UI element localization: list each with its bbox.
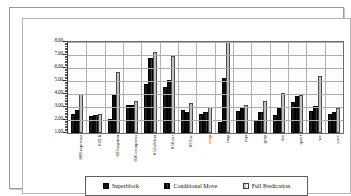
group-separator	[178, 42, 179, 133]
horizontal-gridline	[68, 42, 343, 43]
horizontal-gridline	[68, 107, 343, 108]
legend-item-conditional-move: Conditional Move	[164, 183, 217, 189]
group-separator	[233, 42, 234, 133]
series-2-swatch-icon	[243, 183, 249, 189]
x-axis-labels: 008.espresso022.li023.eqntott026.compres…	[67, 134, 344, 161]
figure-inner-frame: 1.002.003.004.005.006.007.008.00 008.esp…	[22, 18, 351, 194]
group-separator	[215, 42, 216, 133]
group-separator	[288, 42, 289, 133]
chart-legend: Superblock Conditional Move Full Predica…	[85, 176, 308, 196]
series-1-swatch-icon	[164, 183, 170, 189]
y-axis-tick-label: 8.00	[55, 38, 63, 43]
legend-item-superblock: Superblock	[103, 183, 139, 189]
x-axis-tick-label: yacc	[335, 135, 340, 144]
y-axis-tick-label: 7.00	[55, 51, 63, 56]
group-separator	[160, 42, 161, 133]
group-separator	[306, 42, 307, 133]
x-axis-tick-label: 026.compress	[133, 135, 138, 161]
x-axis-tick-label: cccp	[207, 135, 212, 144]
y-axis-tick-label: 3.00	[55, 103, 63, 108]
plot-panel: 1.002.003.004.005.006.007.008.00 008.esp…	[49, 38, 346, 161]
x-axis-tick-label: 072.sc	[188, 135, 193, 147]
bar-2	[134, 101, 138, 133]
figure-container: 1.002.003.004.005.006.007.008.00 008.esp…	[0, 0, 351, 196]
y-axis-tick-label: 4.00	[55, 90, 63, 95]
bar-2	[299, 95, 303, 133]
group-separator	[325, 42, 326, 133]
y-axis-tick-label: 6.00	[55, 64, 63, 69]
plot-area	[67, 41, 344, 134]
figure-outer-frame: 1.002.003.004.005.006.007.008.00 008.esp…	[9, 7, 344, 189]
bar-2	[79, 94, 83, 133]
bar-2	[263, 101, 267, 133]
x-axis-tick-label: cmp	[225, 135, 230, 143]
x-axis-tick-label: qsort	[298, 135, 303, 145]
group-separator	[196, 42, 197, 133]
group-separator	[123, 42, 124, 133]
x-axis-tick-label: eqn	[243, 135, 248, 142]
horizontal-gridline	[68, 94, 343, 95]
x-axis-tick-label: 023.eqntott	[115, 135, 120, 157]
legend-item-full-predication: Full Predication	[243, 183, 291, 189]
x-axis-tick-label: 022.li	[97, 135, 102, 146]
x-axis-tick-label: 052.alvinn	[152, 135, 157, 155]
group-separator	[105, 42, 106, 133]
legend-label-superblock: Superblock	[112, 183, 139, 189]
group-separator	[251, 42, 252, 133]
series-0-swatch-icon	[103, 183, 109, 189]
y-axis: 1.002.003.004.005.006.007.008.00	[49, 38, 67, 134]
x-axis-tick-label: 056.ear	[170, 135, 175, 149]
y-axis-tick-label: 5.00	[55, 77, 63, 82]
bar-2	[318, 76, 322, 133]
legend-label-conditional-move: Conditional Move	[173, 183, 217, 189]
horizontal-gridline	[68, 81, 343, 82]
group-separator	[270, 42, 271, 133]
bar-2	[281, 93, 285, 133]
y-axis-tick-label: 2.00	[55, 116, 63, 121]
bar-2	[98, 114, 102, 134]
group-separator	[86, 42, 87, 133]
bar-2	[244, 105, 248, 133]
x-axis-tick-label: lex	[280, 135, 285, 141]
y-axis-tick-label: 1.00	[55, 129, 63, 134]
x-axis-tick-label: 008.espresso	[78, 135, 83, 160]
group-separator	[141, 42, 142, 133]
x-axis-tick-label: wc	[317, 135, 322, 141]
x-axis-tick-label: grep	[262, 135, 267, 143]
horizontal-gridline	[68, 120, 343, 121]
horizontal-gridline	[68, 68, 343, 69]
legend-label-full-predication: Full Predication	[252, 183, 291, 189]
horizontal-gridline	[68, 55, 343, 56]
